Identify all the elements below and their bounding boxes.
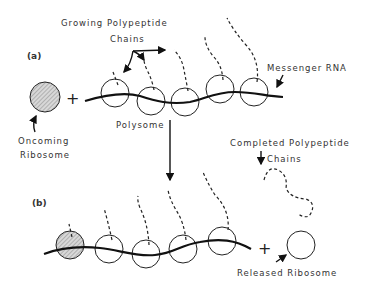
oncoming-label-line2: Ribosome [20,150,70,160]
growing-chains-label-line1: Growing Polypeptide [61,18,168,28]
messenger-rna-label: Messenger RNA [267,63,347,73]
growing-chains-label-line2: Chains [110,34,145,44]
released-ribosome-arrow [276,255,286,262]
polypeptide-chains-b [69,172,228,245]
growing-polypeptide-chains [113,18,258,91]
panel-a-tag: (a) [27,51,41,61]
completed-chains-label-line1: Completed Polypeptide [230,138,350,148]
growing-chains-pointer-arrows [124,50,165,72]
polysome-ribosomes-a [101,75,268,116]
oncoming-ribosome [30,82,60,112]
polysome-label: Polysome [116,120,165,130]
released-ribosome [287,231,315,259]
oncoming-label-line1: Oncoming [18,136,69,146]
released-ribosome-label: Released Ribosome [237,268,337,278]
polysome-diagram: (a) Growing Polypeptide Chains + Oncomin… [0,0,365,293]
messenger-rna-arrow [277,75,283,87]
panel-b-tag: (b) [32,198,47,208]
completed-chains-label-line2: Chains [267,154,302,164]
plus-sign-b: + [258,239,271,258]
messenger-rna-a [85,92,283,103]
attached-new-ribosome [56,231,84,259]
oncoming-arrow [34,116,36,132]
plus-sign-a: + [66,89,79,108]
completed-polypeptide-chain [264,169,313,217]
